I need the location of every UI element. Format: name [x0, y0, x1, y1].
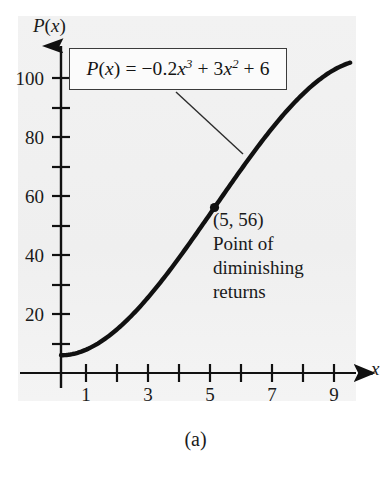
annotation-point-coords: (5, 56)	[213, 209, 264, 231]
y-axis: 20 40 60 80 100	[16, 46, 71, 388]
x-tick-label-3: 3	[143, 384, 153, 405]
x-axis-title: x	[371, 358, 379, 380]
x-tick-label-5: 5	[205, 384, 215, 405]
y-axis-title: P(x)	[33, 15, 66, 37]
annotation-line-2: diminishing	[213, 257, 304, 278]
formula-text: P(x) = −0.2x3 + 3x2 + 6	[86, 58, 269, 80]
y-tick-label-60: 60	[25, 186, 44, 207]
annotation-line-1: Point of	[213, 233, 274, 254]
figure-caption: (a)	[0, 428, 391, 451]
annotation-line-3: returns	[213, 281, 266, 302]
x-tick-label-1: 1	[81, 384, 91, 405]
curve-px	[61, 63, 350, 356]
y-tick-label-40: 40	[25, 245, 44, 266]
y-tick-label-100: 100	[16, 68, 45, 89]
x-tick-label-7: 7	[267, 384, 277, 405]
x-axis: 1 3 5 7 9	[20, 364, 356, 405]
formula-callout-box: P(x) = −0.2x3 + 3x2 + 6	[69, 48, 287, 90]
figure-a-root: 1 3 5 7 9 20 40 60 80	[0, 0, 391, 477]
leader-line	[176, 92, 243, 154]
y-tick-label-20: 20	[25, 304, 44, 325]
y-tick-label-80: 80	[25, 127, 44, 148]
x-tick-label-9: 9	[329, 384, 339, 405]
